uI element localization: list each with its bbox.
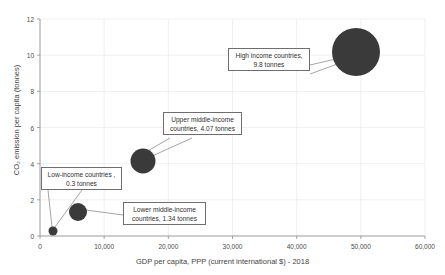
callout-high-income[interactable]: High income countries, 9.8 tonnes bbox=[228, 48, 310, 71]
callout-low-income[interactable]: Low-income countries , 0.3 tonnes bbox=[41, 167, 122, 190]
callout-high-income-line2: 9.8 tonnes bbox=[232, 60, 306, 69]
x-tick-label-30000: 30,000 bbox=[223, 243, 243, 250]
callout-high-income-line1: High income countries, bbox=[232, 51, 306, 60]
y-tick-label-6: 6 bbox=[22, 124, 34, 131]
y-tick-label-4: 4 bbox=[22, 160, 34, 167]
x-tick-label-20000: 20,000 bbox=[158, 243, 178, 250]
callout-upper-middle-line1: Upper middle-income bbox=[167, 115, 238, 124]
callout-low-income-line1: Low-income countries , bbox=[45, 170, 118, 179]
bubble-lower-middle-income[interactable] bbox=[69, 203, 87, 221]
x-tick-label-50000: 50,000 bbox=[351, 243, 371, 250]
callout-low-income-line2: 0.3 tonnes bbox=[45, 179, 118, 188]
y-tick-label-0: 0 bbox=[22, 233, 34, 240]
y-tick-label-2: 2 bbox=[22, 196, 34, 203]
bubble-high-income[interactable] bbox=[332, 28, 380, 76]
chart-canvas bbox=[0, 0, 445, 275]
y-axis-title: CO₂ emission per capita (tonnes) bbox=[12, 10, 21, 230]
x-tick-label-60000: 60,000 bbox=[415, 243, 435, 250]
callout-lower-middle-line2: countries, 1.34 tonnes bbox=[127, 214, 202, 223]
y-tick-label-8: 8 bbox=[22, 88, 34, 95]
callout-upper-middle-line2: countries, 4.07 tonnes bbox=[167, 124, 238, 133]
y-tick-label-10: 10 bbox=[22, 52, 34, 59]
callout-lower-middle-line1: Lower middle-income bbox=[127, 205, 202, 214]
bubble-upper-middle-income[interactable] bbox=[131, 149, 156, 174]
x-tick-label-0: 0 bbox=[38, 243, 42, 250]
y-tick-label-12: 12 bbox=[22, 16, 34, 23]
callout-upper-middle-income[interactable]: Upper middle-income countries, 4.07 tonn… bbox=[163, 112, 242, 135]
callout-lower-middle-income[interactable]: Lower middle-income countries, 1.34 tonn… bbox=[123, 202, 206, 225]
x-tick-label-40000: 40,000 bbox=[287, 243, 307, 250]
x-tick-label-10000: 10,000 bbox=[94, 243, 114, 250]
x-axis-title: GDP per capita, PPP (current internation… bbox=[0, 257, 445, 266]
bubble-chart: 12 10 8 6 4 2 0 0 10,000 20,000 30,000 4… bbox=[0, 0, 445, 275]
bubble-low-income[interactable] bbox=[49, 227, 58, 236]
